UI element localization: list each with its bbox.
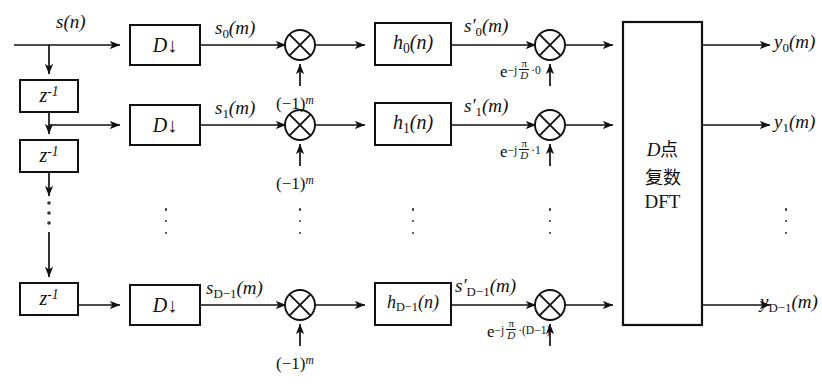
filtered-signal-label-0: s′0(m) bbox=[464, 16, 508, 39]
filter-block-0 bbox=[375, 23, 451, 65]
dft-line-3: DFT bbox=[645, 191, 681, 213]
ellipsis-modulator-column bbox=[297, 208, 303, 234]
decimated-signal-label-2: sD−1(m) bbox=[206, 278, 263, 301]
modulator-label-2: (−1)m bbox=[276, 355, 314, 372]
ellipsis-twiddle-column bbox=[547, 208, 553, 234]
filtered-signal-label-2: s′D−1(m) bbox=[455, 276, 516, 299]
twiddle-label-0: e −j π D ·0 bbox=[500, 62, 541, 85]
twiddle-label-2: e −j π D ·(D−1) bbox=[487, 322, 550, 345]
filter-blocks bbox=[375, 23, 451, 325]
output-label-0: y0(m) bbox=[774, 32, 815, 55]
input-signal-label: s(n) bbox=[56, 12, 86, 31]
delay-chain-ellipsis bbox=[47, 201, 51, 225]
ellipsis-filter-column bbox=[410, 208, 416, 234]
dft-line-2: 复数 bbox=[645, 163, 681, 189]
decimated-signal-label-0: s0(m) bbox=[215, 18, 255, 41]
filter-block-2 bbox=[375, 283, 451, 325]
decimator-block-0 bbox=[130, 25, 200, 65]
decimated-signal-label-1: s1(m) bbox=[215, 98, 255, 121]
decimator-block-2 bbox=[130, 285, 200, 325]
dft-block-label: D点 复数 DFT bbox=[623, 22, 702, 325]
delay-block-2 bbox=[20, 140, 78, 172]
output-label-1: y1(m) bbox=[774, 112, 815, 135]
twiddle-label-1: e −j π D ·1 bbox=[500, 142, 541, 165]
output-label-2: yD−1(m) bbox=[760, 292, 818, 315]
ellipsis-output-column bbox=[783, 208, 789, 234]
filter-block-1 bbox=[375, 103, 451, 145]
modulator-label-0: (−1)m bbox=[276, 95, 314, 112]
filter-bank-diagram: s(n) z-1 z-1 z-1 D↓ D↓ D↓ s0(m) s1(m) sD… bbox=[0, 0, 822, 392]
ellipsis-decimator-column bbox=[163, 208, 169, 234]
dft-line-1: D点 bbox=[647, 135, 679, 161]
delay-block-3 bbox=[20, 283, 78, 315]
decimator-blocks bbox=[130, 25, 200, 325]
filtered-signal-label-1: s′1(m) bbox=[464, 96, 508, 119]
delay-block-1 bbox=[20, 80, 78, 112]
modulator-label-1: (−1)m bbox=[276, 175, 314, 192]
decimator-block-1 bbox=[130, 105, 200, 145]
